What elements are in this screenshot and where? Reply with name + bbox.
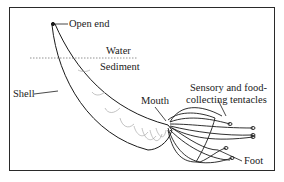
mouth-leader <box>155 107 166 121</box>
label-foot: Foot <box>244 155 263 166</box>
shell-icon <box>51 22 172 150</box>
tentacles-icon <box>168 108 255 163</box>
shell-leader <box>34 91 58 94</box>
label-sediment: Sediment <box>100 61 140 72</box>
label-open-end: Open end <box>69 18 110 29</box>
label-tentacles-line2: collecting tentacles <box>186 94 267 105</box>
label-shell: Shell <box>13 88 35 99</box>
label-mouth: Mouth <box>141 95 169 106</box>
label-water: Water <box>106 45 131 56</box>
label-tentacles-line1: Sensory and food- <box>190 82 267 93</box>
